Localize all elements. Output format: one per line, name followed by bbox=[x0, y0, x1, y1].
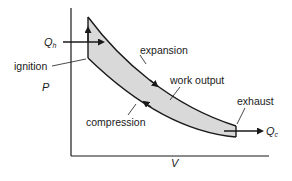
ignition-leader bbox=[52, 59, 86, 66]
ignition-label: ignition bbox=[14, 60, 47, 72]
expansion-label: expansion bbox=[140, 44, 188, 56]
exhaust-label: exhaust bbox=[237, 95, 274, 107]
pv-diagram: P V Qh Qc ignition expansion work output… bbox=[0, 0, 292, 181]
x-axis-label: V bbox=[171, 157, 180, 169]
heat-in-label: Qh bbox=[44, 36, 57, 49]
heat-out-label: Qc bbox=[266, 125, 279, 138]
y-axis-label: P bbox=[42, 81, 50, 93]
work-output-label: work output bbox=[169, 74, 224, 86]
exhaust-leader bbox=[237, 108, 245, 124]
compression-label: compression bbox=[86, 116, 146, 128]
compression-leader bbox=[128, 104, 136, 115]
expansion-leader bbox=[140, 55, 146, 64]
